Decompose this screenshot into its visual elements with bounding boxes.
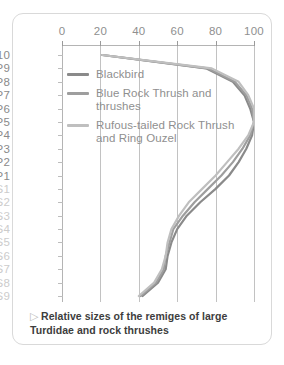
legend-label: Blackbird — [96, 68, 144, 81]
caption-triangle-icon: ▷ — [30, 310, 38, 322]
legend-item: Blackbird — [67, 68, 252, 81]
y-tick-label-S1: S1 — [0, 183, 10, 195]
x-tick-label-100: 100 — [244, 25, 264, 37]
x-tick-label-80: 80 — [209, 25, 222, 37]
y-tick-label-P8: P8 — [0, 76, 10, 88]
chart-legend: BlackbirdBlue Rock Thrush and thrushesRu… — [67, 68, 252, 151]
y-tick-label-S6: S6 — [0, 250, 10, 262]
y-tick-label-S5: S5 — [0, 236, 10, 248]
y-tick-label-P2: P2 — [0, 156, 10, 168]
legend-swatch-icon — [67, 73, 89, 76]
x-tick-label-60: 60 — [171, 25, 184, 37]
y-tick-label-S4: S4 — [0, 223, 10, 235]
y-tick-label-P9: P9 — [0, 62, 10, 74]
x-tick-label-20: 20 — [94, 25, 107, 37]
caption-text: Relative sizes of the remiges of large T… — [30, 310, 227, 336]
legend-swatch-icon — [67, 92, 89, 95]
legend-item: Rufous-tailed Rock Thrush and Ring Ouzel — [67, 119, 252, 145]
y-tick-label-P4: P4 — [0, 129, 10, 141]
legend-label: Rufous-tailed Rock Thrush and Ring Ouzel — [96, 119, 252, 145]
figure-card: 020406080100 P10P9P8P7P6P5P4P3P2P1S1S2S3… — [12, 13, 272, 345]
y-tick-label-S8: S8 — [0, 277, 10, 289]
figure-root: 020406080100 P10P9P8P7P6P5P4P3P2P1S1S2S3… — [0, 0, 284, 365]
legend-label: Blue Rock Thrush and thrushes — [96, 87, 252, 113]
legend-swatch-icon — [67, 124, 89, 127]
figure-caption: ▷Relative sizes of the remiges of large … — [30, 310, 258, 337]
x-tick-100 — [254, 41, 255, 46]
y-tick-label-P3: P3 — [0, 143, 10, 155]
y-tick-label-S3: S3 — [0, 210, 10, 222]
y-tick-label-S2: S2 — [0, 196, 10, 208]
x-tick-label-40: 40 — [132, 25, 145, 37]
y-tick-label-S9: S9 — [0, 290, 10, 302]
y-tick-label-P5: P5 — [0, 116, 10, 128]
y-tick-label-P6: P6 — [0, 103, 10, 115]
y-tick-label-P1: P1 — [0, 170, 10, 182]
y-tick-label-S7: S7 — [0, 263, 10, 275]
x-tick-label-0: 0 — [59, 25, 66, 37]
legend-item: Blue Rock Thrush and thrushes — [67, 87, 252, 113]
chart-figure: 020406080100 P10P9P8P7P6P5P4P3P2P1S1S2S3… — [13, 14, 273, 306]
y-tick-label-P10: P10 — [0, 49, 10, 61]
gridline-100 — [254, 45, 255, 302]
y-tick-label-P7: P7 — [0, 89, 10, 101]
